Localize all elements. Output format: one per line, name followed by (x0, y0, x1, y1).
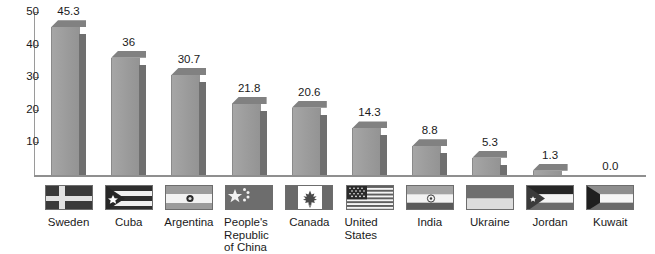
bar-top-face (111, 51, 146, 58)
bar[interactable] (292, 108, 327, 175)
y-axis-tick-label: 40 (0, 39, 39, 50)
y-axis-tick-label-text: 20 (11, 104, 39, 115)
bar-front-face (472, 158, 501, 175)
bar-front-face (412, 146, 441, 175)
bar-value-label: 0.0 (580, 160, 640, 172)
bar-value-label: 20.6 (279, 86, 339, 98)
category-label-line: States (345, 229, 403, 242)
y-axis-tick-label: 20 (0, 104, 39, 115)
bar-value-label: 45.3 (39, 5, 99, 17)
cuba-flag (105, 185, 153, 210)
category-label-line: People's (224, 216, 282, 229)
bar[interactable] (232, 104, 267, 175)
bar-top-face (472, 151, 507, 158)
bar-value-label: 1.3 (520, 149, 580, 161)
bar[interactable] (533, 171, 568, 175)
category-label-line: United (345, 216, 403, 229)
bar-top-face (51, 20, 86, 27)
bar-chart: 1020304050 45.33630.721.820.614.38.85.31… (0, 0, 655, 254)
china-flag (225, 185, 273, 210)
bar-front-face (232, 104, 261, 175)
bar-side-face (380, 135, 387, 175)
category-label: Kuwait (577, 216, 643, 229)
category-label-line: Ukraine (457, 216, 523, 229)
bar-top-face (412, 139, 447, 146)
category-label: Canada (276, 216, 342, 229)
bar[interactable] (111, 58, 146, 175)
bar-value-label: 14.3 (340, 106, 400, 118)
ukraine-flag (466, 185, 514, 210)
plot-area: 1020304050 45.33630.721.820.614.38.85.31… (0, 0, 655, 180)
category-label: Jordan (517, 216, 583, 229)
india-flag (406, 185, 454, 210)
bar[interactable] (352, 128, 387, 175)
bar[interactable] (51, 27, 86, 175)
category-label: Argentina (156, 216, 222, 229)
y-axis-tick-label: 30 (0, 71, 39, 82)
bar-top-face (292, 101, 327, 108)
united-states-flag (346, 185, 394, 210)
bar[interactable] (412, 146, 447, 175)
bar-front-face (352, 128, 381, 175)
y-axis-tick-label-text: 40 (11, 39, 39, 50)
category-label-line: of China (224, 241, 282, 254)
category-label-line: India (397, 216, 463, 229)
category-label: People'sRepublicof China (224, 216, 282, 254)
bar[interactable] (593, 174, 628, 175)
bar-value-label: 36 (99, 36, 159, 48)
sweden-flag (45, 185, 93, 210)
category-label-line: Canada (276, 216, 342, 229)
jordan-flag (526, 185, 574, 210)
category-label-line: Kuwait (577, 216, 643, 229)
y-axis-tick-label-text: 10 (11, 136, 39, 147)
bar-side-face (199, 82, 206, 175)
y-axis-tick-label: 50 (0, 6, 39, 17)
x-axis-line (34, 175, 646, 177)
bar-top-face (232, 97, 267, 104)
y-axis-tick-label-text: 30 (11, 71, 39, 82)
category-label: Cuba (96, 216, 162, 229)
flags-row (0, 185, 655, 212)
bar-value-label: 30.7 (159, 53, 219, 65)
bar-side-face (260, 111, 267, 175)
category-label: India (397, 216, 463, 229)
bar-front-face (533, 171, 562, 175)
bar-value-label: 8.8 (400, 124, 460, 136)
bar[interactable] (472, 158, 507, 175)
canada-flag (285, 185, 333, 210)
bar-top-face (171, 68, 206, 75)
category-label-line: Argentina (156, 216, 222, 229)
bar-top-face (533, 164, 568, 171)
category-label-line: Jordan (517, 216, 583, 229)
y-axis-line (34, 12, 35, 176)
bar-side-face (500, 165, 507, 175)
category-label: UnitedStates (345, 216, 403, 241)
bar-top-face (352, 121, 387, 128)
category-label: Sweden (36, 216, 102, 229)
bar-front-face (111, 58, 140, 175)
bar-side-face (440, 153, 447, 175)
category-label-line: Cuba (96, 216, 162, 229)
kuwait-flag (586, 185, 634, 210)
bar-side-face (79, 34, 86, 175)
bar-side-face (139, 65, 146, 175)
category-label: Ukraine (457, 216, 523, 229)
bar-front-face (171, 75, 200, 175)
bar-side-face (320, 115, 327, 175)
y-axis-tick-label: 10 (0, 136, 39, 147)
bar-value-label: 21.8 (219, 82, 279, 94)
bar-value-label: 5.3 (460, 136, 520, 148)
category-label-line: Sweden (36, 216, 102, 229)
category-label-line: Republic (224, 229, 282, 242)
category-labels-row: SwedenCubaArgentinaPeople'sRepublicof Ch… (0, 216, 655, 254)
bar[interactable] (171, 75, 206, 175)
bar-front-face (292, 108, 321, 175)
argentina-flag (165, 185, 213, 210)
y-axis-tick-label-text: 50 (11, 6, 39, 17)
bar-front-face (51, 27, 80, 175)
